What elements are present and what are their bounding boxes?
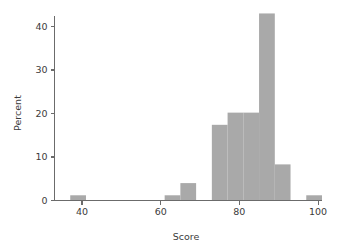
x-tick-label: 80 — [233, 206, 245, 217]
histogram-bar — [70, 195, 86, 200]
histogram-bar — [228, 113, 244, 201]
histogram-bar — [165, 195, 181, 200]
x-tick-label: 100 — [309, 206, 327, 217]
x-tick-label: 60 — [155, 206, 167, 217]
x-axis-title: Score — [173, 231, 200, 242]
y-tick-label: 20 — [35, 108, 47, 119]
histogram-figure: 010203040 406080100 Score Percent — [0, 0, 343, 249]
y-axis-title: Percent — [12, 95, 23, 131]
x-axis-ticks: 406080100 — [76, 201, 327, 217]
y-axis-ticks: 010203040 — [35, 21, 54, 206]
histogram-bar — [259, 13, 275, 200]
y-tick-label: 30 — [35, 64, 47, 75]
bars-group — [70, 13, 322, 200]
histogram-bar — [212, 125, 228, 201]
histogram-bar — [243, 113, 259, 201]
y-tick-label: 0 — [41, 195, 47, 206]
histogram-plot: 010203040 406080100 Score Percent — [0, 0, 343, 249]
x-tick-label: 40 — [76, 206, 88, 217]
histogram-bar — [306, 195, 322, 200]
y-tick-label: 40 — [35, 21, 47, 32]
y-tick-label: 10 — [35, 151, 47, 162]
histogram-bar — [180, 183, 196, 200]
histogram-bar — [275, 164, 291, 200]
